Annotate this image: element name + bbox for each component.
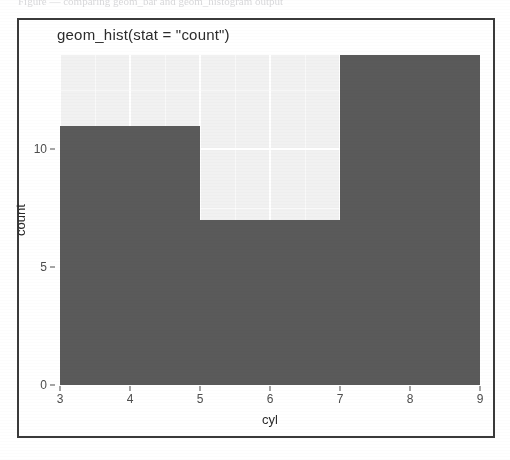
bar-8: [340, 55, 480, 385]
y-axis-title: count: [13, 204, 28, 236]
x-tick-mark: [200, 386, 201, 391]
y-tick-label: 10: [34, 142, 47, 156]
x-tick-label: 9: [477, 392, 484, 406]
x-axis-title-text: cyl: [262, 412, 278, 427]
cut-off-caption: Figure — comparing geom_bar and geom_his…: [18, 0, 348, 7]
x-tick-mark: [60, 386, 61, 391]
bar-4: [60, 126, 200, 385]
y-tick-label: 5: [40, 260, 47, 274]
x-tick-mark: [270, 386, 271, 391]
x-tick-label: 3: [57, 392, 64, 406]
x-tick-label: 4: [127, 392, 134, 406]
plot-panel: [60, 55, 480, 385]
x-tick-label: 7: [337, 392, 344, 406]
y-axis-tick-labels: 0510: [0, 0, 60, 460]
bar-6: [200, 220, 340, 385]
x-tick-mark: [410, 386, 411, 391]
x-tick-mark: [340, 386, 341, 391]
x-tick-mark: [480, 386, 481, 391]
x-tick-label: 6: [267, 392, 274, 406]
page-title: geom_hist(stat = "count"): [57, 26, 230, 43]
y-tick-mark: [50, 149, 55, 150]
x-tick-label: 8: [407, 392, 414, 406]
y-tick-mark: [50, 267, 55, 268]
x-tick-label: 5: [197, 392, 204, 406]
y-tick-label: 0: [40, 378, 47, 392]
y-tick-mark: [50, 385, 55, 386]
x-tick-mark: [130, 386, 131, 391]
